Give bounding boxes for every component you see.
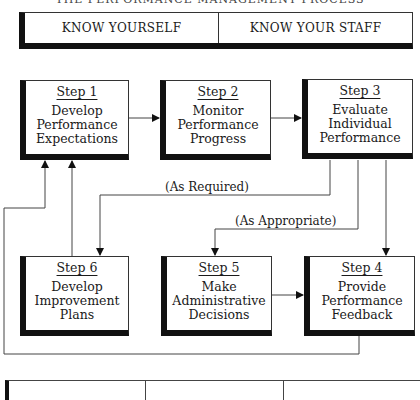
step-6-number: Step 6 (57, 261, 98, 275)
step-4-number: Step 4 (342, 261, 383, 275)
step-1-label: Develop Performance Expectations (26, 104, 128, 146)
step-2-box: Step 2 Monitor Performance Progress (160, 80, 271, 160)
step-3-label: Evaluate Individual Performance (308, 103, 412, 145)
step-6-box: Step 6 Develop Improvement Plans (20, 256, 129, 336)
step-1-box: Step 1 Develop Performance Expectations (20, 80, 129, 160)
step-4-box: Step 4 Provide Performance Feedback (304, 256, 415, 336)
as-appropriate-label: (As Appropriate) (235, 214, 336, 228)
bottom-bar (5, 380, 420, 400)
step-3-number: Step 3 (340, 84, 381, 98)
step-5-number: Step 5 (199, 261, 240, 275)
step-3-box: Step 3 Evaluate Individual Performance (302, 79, 413, 159)
step-5-label: Make Administrative Decisions (167, 280, 271, 322)
bottom-bar-cell-3 (283, 381, 420, 400)
bottom-bar-cell-1 (9, 381, 145, 400)
step-6-label: Develop Improvement Plans (26, 280, 128, 322)
step-5-box: Step 5 Make Administrative Decisions (161, 256, 272, 336)
step-1-number: Step 1 (57, 85, 98, 99)
bottom-bar-cell-2 (145, 381, 282, 400)
step-2-number: Step 2 (198, 85, 239, 99)
as-required-label: (As Required) (165, 180, 249, 194)
step-2-label: Monitor Performance Progress (166, 104, 270, 146)
step-4-label: Provide Performance Feedback (310, 280, 414, 322)
